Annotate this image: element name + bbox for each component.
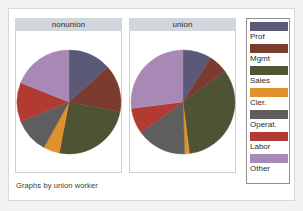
legend-item-operat: Operat. xyxy=(250,110,286,132)
panel-union: union xyxy=(129,18,236,173)
legend-swatch-sales xyxy=(250,66,288,75)
graph-frame: nonunion union Prof M xyxy=(8,8,295,201)
graph-caption: Graphs by union worker xyxy=(16,181,98,191)
legend-swatch-cler xyxy=(250,88,288,97)
legend-label-operat: Operat. xyxy=(250,119,288,131)
panel-title-nonunion: nonunion xyxy=(15,18,122,31)
panel-nonunion: nonunion xyxy=(15,18,122,173)
legend-item-other: Other xyxy=(250,154,286,176)
pie-chart-nonunion xyxy=(16,31,121,172)
legend-label-sales: Sales xyxy=(250,75,288,87)
legend-label-prof: Prof xyxy=(250,31,288,43)
legend-item-prof: Prof xyxy=(250,22,286,44)
panel-body-union xyxy=(129,31,236,173)
pie-slice-other xyxy=(130,50,182,109)
legend-label-cler: Cler. xyxy=(250,97,288,109)
pie-svg-union xyxy=(124,43,242,161)
panel-body-nonunion xyxy=(15,31,122,173)
legend-label-other: Other xyxy=(250,163,288,175)
legend-item-mgmt: Mgmt xyxy=(250,44,286,66)
chart-legend: Prof Mgmt Sales Cler. Operat. Labor xyxy=(246,18,290,184)
pie-chart-union xyxy=(130,31,235,172)
panel-title-union: union xyxy=(129,18,236,31)
legend-swatch-other xyxy=(250,154,288,163)
legend-label-mgmt: Mgmt xyxy=(250,53,288,65)
legend-swatch-operat xyxy=(250,110,288,119)
legend-swatch-prof xyxy=(250,22,288,31)
legend-item-sales: Sales xyxy=(250,66,286,88)
pie-svg-nonunion xyxy=(10,43,128,161)
legend-item-cler: Cler. xyxy=(250,88,286,110)
legend-label-labor: Labor xyxy=(250,141,288,153)
pie-slice-sales xyxy=(59,102,120,154)
screenshot-root: nonunion union Prof M xyxy=(0,0,303,211)
legend-item-labor: Labor xyxy=(250,132,286,154)
legend-swatch-mgmt xyxy=(250,44,288,53)
legend-swatch-labor xyxy=(250,132,288,141)
